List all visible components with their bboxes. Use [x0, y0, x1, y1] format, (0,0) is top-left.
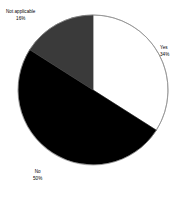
pie-label-no-value: 50% [33, 176, 42, 183]
pie-label-yes-value: 34% [160, 52, 169, 59]
pie-chart: Not applicable 16% Yes 34% No 50% [0, 0, 185, 198]
pie-label-not-applicable-value: 16% [6, 16, 35, 23]
pie-label-not-applicable: Not applicable 16% [6, 9, 35, 22]
pie-label-yes: Yes 34% [160, 45, 169, 58]
pie-label-no: No 50% [33, 169, 42, 182]
pie-label-not-applicable-name: Not applicable [6, 9, 35, 16]
pie-chart-canvas [0, 0, 185, 198]
